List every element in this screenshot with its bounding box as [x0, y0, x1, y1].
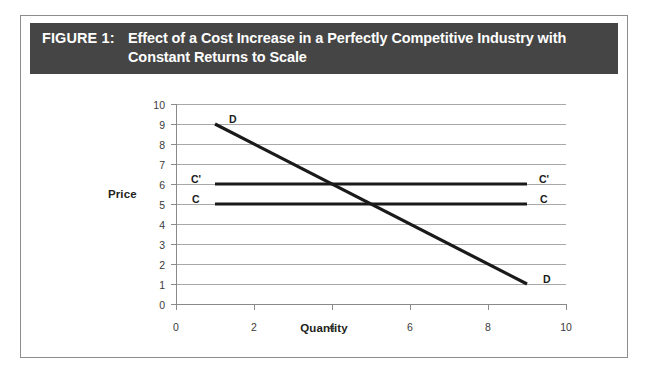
chart-plot-area: Price Quantity 10 9 8 7 6 5 4 3 2 1 0 0 …: [30, 78, 618, 350]
figure-frame: FIGURE 1: Effect of a Cost Increase in a…: [20, 15, 628, 358]
x-axis-ticks: [176, 304, 566, 310]
figure-header-second-line: Constant Returns to Scale: [42, 48, 608, 67]
figure-title-line-1: Effect of a Cost Increase in a Perfectly…: [128, 29, 566, 48]
figure-title-line-2: Constant Returns to Scale: [128, 48, 307, 67]
chart-canvas: [30, 78, 618, 350]
y-axis-ticks: [171, 104, 176, 304]
gridlines-horizontal: [176, 104, 566, 284]
figure-header-first-line: FIGURE 1: Effect of a Cost Increase in a…: [42, 29, 608, 48]
figure-number-label: FIGURE 1:: [42, 29, 128, 48]
figure-header-bar: FIGURE 1: Effect of a Cost Increase in a…: [30, 23, 618, 74]
